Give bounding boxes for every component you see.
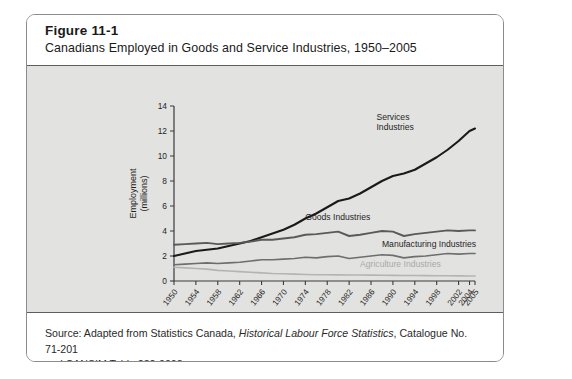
y-tick-label-4: 8	[162, 176, 167, 186]
source-line-1: Source: Adapted from Statistics Canada, …	[45, 326, 481, 357]
x-tick-label-8: 1982	[336, 287, 355, 307]
figure-header: Figure 11-1 Canadians Employed in Goods …	[27, 15, 503, 65]
x-tick-label-5: 1970	[271, 287, 290, 307]
series-label-3: Agriculture Industries	[360, 259, 441, 269]
series-label-0-b: Industries	[376, 122, 413, 132]
x-tick-label-7: 1978	[315, 287, 334, 307]
x-tick-label-10: 1990	[380, 287, 399, 307]
y-tick-label-7: 14	[158, 101, 168, 111]
y-tick-label-6: 12	[158, 126, 168, 136]
x-tick-label-0: 1950	[161, 287, 180, 307]
x-tick-label-1: 1954	[183, 287, 202, 307]
x-tick-label-12: 1998	[424, 287, 443, 307]
x-tick-label-11: 1994	[402, 287, 421, 307]
x-tick-label-3: 1962	[227, 287, 246, 307]
y-tick-label-2: 4	[162, 226, 167, 236]
y-tick-label-0: 0	[162, 276, 167, 286]
series-label-1: Goods Industries	[305, 212, 370, 222]
y-tick-label-1: 2	[162, 251, 167, 261]
source-note: Source: Adapted from Statistics Canada, …	[27, 313, 503, 361]
y-axis-title-line2: (millions)	[139, 175, 149, 211]
x-tick-label-6: 1974	[293, 287, 312, 307]
figure-number: Figure 11-1	[45, 22, 503, 39]
source-publication-title: Historical Labour Force Statistics	[239, 327, 394, 339]
source-prefix: Source: Adapted from Statistics Canada,	[45, 327, 239, 339]
y-tick-label-3: 6	[162, 201, 167, 211]
series-line-0	[174, 129, 475, 257]
series-label-0: Services	[376, 112, 409, 122]
figure-container: Figure 11-1 Canadians Employed in Goods …	[26, 14, 504, 362]
y-axis-title-line1: Employment	[128, 168, 138, 219]
figure-title: Canadians Employed in Goods and Service …	[45, 39, 503, 57]
line-chart: 0246810121419501954195819621966197019741…	[27, 66, 504, 314]
x-tick-label-2: 1958	[205, 287, 224, 307]
y-tick-label-5: 10	[158, 151, 168, 161]
x-tick-label-9: 1986	[358, 287, 377, 307]
series-label-2: Manufacturing Industries	[382, 239, 476, 249]
chart-plot-area: 0246810121419501954195819621966197019741…	[27, 65, 503, 313]
x-tick-label-4: 1966	[249, 287, 268, 307]
source-line-2: and CANSIM Table 282-0008.	[45, 357, 481, 362]
